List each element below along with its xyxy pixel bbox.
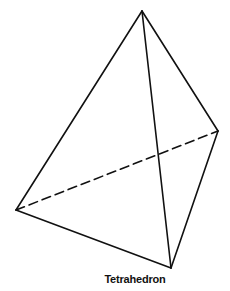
hidden-edge-left-right xyxy=(16,131,218,210)
edge-apex-left xyxy=(16,11,142,210)
edge-left-bottom xyxy=(16,210,171,268)
figure-caption: Tetrahedron xyxy=(100,273,170,285)
edge-right-bottom xyxy=(171,131,218,268)
tetrahedron-diagram xyxy=(0,0,230,291)
